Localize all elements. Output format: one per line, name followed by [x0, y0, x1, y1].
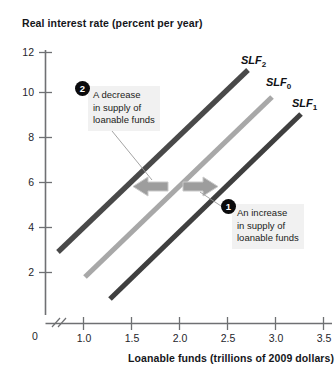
callout-decrease-line-1: A decrease [93, 89, 155, 102]
loanable-funds-supply-chart [0, 0, 336, 375]
callout-2-leader-line [112, 131, 152, 180]
curve-label-slf0-subscript: 0 [287, 82, 291, 91]
curve-label-slf1-text: SLF [292, 97, 313, 109]
callout-decrease-supply: A decrease in supply of loanable funds [88, 86, 160, 131]
curve-label-slf1: SLF1 [292, 97, 317, 112]
curve-label-slf0: SLF0 [266, 76, 291, 91]
x-tick-label-3-5: 3.5 [309, 332, 336, 344]
y-tick-label-8: 8 [12, 131, 34, 143]
x-tick-label-1-5: 1.5 [117, 332, 147, 344]
x-tick-label-3-0: 3.0 [261, 332, 291, 344]
curve-label-slf0-text: SLF [266, 76, 287, 88]
curve-label-slf2-subscript: 2 [262, 60, 266, 69]
y-tick-label-10: 10 [12, 86, 34, 98]
curve-label-slf1-subscript: 1 [313, 103, 317, 112]
y-tick-label-2: 2 [12, 266, 34, 278]
callout-increase-line-3: loanable funds [237, 232, 299, 245]
origin-label: 0 [24, 330, 46, 342]
y-tick-label-12: 12 [12, 46, 34, 58]
curve-label-slf2: SLF2 [241, 54, 266, 69]
x-tick-label-1-0: 1.0 [69, 332, 99, 344]
callout-decrease-line-3: loanable funds [93, 114, 155, 127]
callout-badge-2: 2 [75, 81, 90, 96]
decrease-arrow-icon [133, 177, 168, 196]
callout-increase-line-2: in supply of [237, 220, 299, 233]
x-tick-label-2-5: 2.5 [213, 332, 243, 344]
callout-increase-supply: An increase in supply of loanable funds [232, 204, 304, 249]
callout-badge-1: 1 [221, 199, 236, 214]
callout-increase-line-1: An increase [237, 207, 299, 220]
y-tick-label-6: 6 [12, 176, 34, 188]
x-tick-label-2-0: 2.0 [165, 332, 195, 344]
y-tick-label-4: 4 [12, 221, 34, 233]
curve-label-slf2-text: SLF [241, 54, 262, 66]
y-axis-title: Real interest rate (percent per year) [22, 17, 203, 29]
callout-decrease-line-2: in supply of [93, 102, 155, 115]
x-axis-title: Loanable funds (trillions of 2009 dollar… [128, 352, 334, 364]
